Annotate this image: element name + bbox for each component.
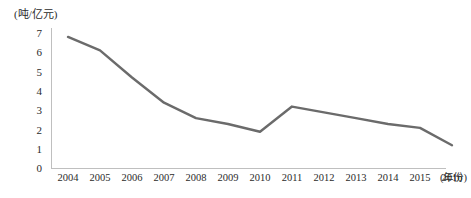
data-line-series-1 <box>68 37 452 145</box>
chart-figure: (吨/亿元) 0 1 2 3 4 5 6 7 2004 2005 2006 20… <box>0 0 471 198</box>
x-axis-title: (年份) <box>440 172 467 183</box>
plot-area <box>0 0 471 198</box>
